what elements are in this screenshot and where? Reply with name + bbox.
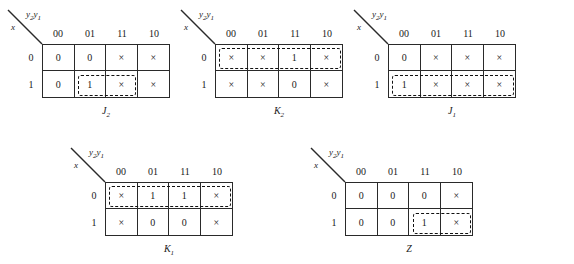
kmap-k1-column-variable-label: y2y1 <box>89 148 104 160</box>
kmap-k1-cell-r0c0: × <box>106 183 138 209</box>
kmap-k2-row-headers: 01 <box>197 44 211 98</box>
kmap-z-col-header-2: 11 <box>409 167 441 177</box>
kmap-j2-row-headers: 01 <box>24 44 38 98</box>
kmap-j1-row-header-1: 1 <box>370 71 384 98</box>
kmap-z-axis-corner: y2y1x <box>309 146 345 182</box>
kmap-k1-cell-r0c2: 1 <box>169 183 201 209</box>
kmap-z-cell-r0c1: 0 <box>378 183 410 209</box>
kmap-z-col-header-0: 00 <box>345 167 377 177</box>
kmap-j1-row-headers: 01 <box>370 44 384 98</box>
kmap-k2-row-variable-label: x <box>184 23 188 32</box>
kmap-k1-axis-corner: y2y1x <box>69 146 105 182</box>
kmap-k1-cell-r1c3: × <box>201 209 233 235</box>
kmap-j2-cell-r1c3: × <box>138 71 170 97</box>
kmap-j1-col-header-1: 01 <box>420 29 452 39</box>
kmap-j1-cell-r0c3: × <box>484 45 516 71</box>
kmap-j2-cell-r0c2: × <box>106 45 138 71</box>
kmap-k1-row-headers: 01 <box>87 182 101 236</box>
kmap-j1-column-variable-label: y2y1 <box>372 10 387 22</box>
kmap-k2-cell-r0c2: 1 <box>279 45 311 71</box>
kmap-j2-col-header-2: 11 <box>106 29 138 39</box>
kmap-k2-cell-r0c0: × <box>216 45 248 71</box>
kmap-k1-cell-r1c2: 0 <box>169 209 201 235</box>
kmap-k1-col-header-1: 01 <box>137 167 169 177</box>
kmap-k2-cell-r1c2: 0 <box>279 71 311 97</box>
kmap-j2-col-header-3: 10 <box>138 29 170 39</box>
kmap-k2-col-header-2: 11 <box>279 29 311 39</box>
kmap-k2-caption: K2 <box>215 106 343 119</box>
kmap-z-row-header-0: 0 <box>327 182 341 209</box>
kmap-j1-col-header-0: 00 <box>388 29 420 39</box>
kmap-z-col-header-3: 10 <box>441 167 473 177</box>
kmap-j1-cell-r0c0: 0 <box>389 45 421 71</box>
kmap-j2-row-header-1: 1 <box>24 71 38 98</box>
kmap-j2-col-header-1: 01 <box>74 29 106 39</box>
kmap-j2-column-variable-label: y2y1 <box>26 10 41 22</box>
kmap-z-col-header-1: 01 <box>377 167 409 177</box>
kmap-z-row-headers: 01 <box>327 182 341 236</box>
kmap-j1-cell-r1c2: × <box>452 71 484 97</box>
kmap-j2-cell-r1c1: 1 <box>75 71 107 97</box>
kmap-k1-cell-r0c1: 1 <box>138 183 170 209</box>
kmap-k1-col-header-2: 11 <box>169 167 201 177</box>
kmap-j2-row-header-0: 0 <box>24 44 38 71</box>
kmap-j2-cell-r0c3: × <box>138 45 170 71</box>
kmap-z-cell-r1c0: 0 <box>346 209 378 235</box>
kmap-z: y2y1x0001111001000×001×Z <box>345 182 473 236</box>
kmap-j2-cell-r0c1: 0 <box>75 45 107 71</box>
kmap-j2-cell-r0c0: 0 <box>43 45 75 71</box>
kmap-j1-col-header-2: 11 <box>452 29 484 39</box>
kmap-j1-cell-r1c3: × <box>484 71 516 97</box>
kmap-k2-column-variable-label: y2y1 <box>199 10 214 22</box>
kmap-k1-cell-r1c0: × <box>106 209 138 235</box>
kmap-j2-column-headers: 00011110 <box>42 29 170 39</box>
kmap-j2-caption: J2 <box>42 106 170 119</box>
kmap-k1: y2y1x0001111001×11××00×K1 <box>105 182 233 236</box>
kmap-z-column-variable-label: y2y1 <box>329 148 344 160</box>
kmap-k2-cell-r1c0: × <box>216 71 248 97</box>
kmap-k2-row-header-1: 1 <box>197 71 211 98</box>
kmap-z-cell-r1c2: 1 <box>409 209 441 235</box>
kmap-k2-row-header-0: 0 <box>197 44 211 71</box>
kmap-k2-column-headers: 00011110 <box>215 29 343 39</box>
kmap-k1-col-header-0: 00 <box>105 167 137 177</box>
kmap-k1-row-header-0: 0 <box>87 182 101 209</box>
kmap-figure: y2y1x000111100100××01××J2y2y1x0001111001… <box>0 0 574 264</box>
kmap-j2-cell-r1c0: 0 <box>43 71 75 97</box>
kmap-k1-row-header-1: 1 <box>87 209 101 236</box>
kmap-k2-col-header-3: 10 <box>311 29 343 39</box>
kmap-j1-caption: J1 <box>388 106 516 119</box>
kmap-j1-row-variable-label: x <box>357 23 361 32</box>
kmap-j2-cell-r1c2: × <box>106 71 138 97</box>
kmap-k2-cell-r0c3: × <box>311 45 343 71</box>
kmap-z-cell-r0c0: 0 <box>346 183 378 209</box>
kmap-z-column-headers: 00011110 <box>345 167 473 177</box>
kmap-k2-cell-r1c1: × <box>248 71 280 97</box>
kmap-z-cell-r1c1: 0 <box>378 209 410 235</box>
kmap-j2: y2y1x000111100100××01××J2 <box>42 44 170 98</box>
kmap-j2-axis-corner: y2y1x <box>6 8 42 44</box>
kmap-j1-col-header-3: 10 <box>484 29 516 39</box>
kmap-j1-grid: 0×××1××× <box>388 44 516 98</box>
kmap-k2-grid: ××1×××0× <box>215 44 343 98</box>
kmap-j1-axis-corner: y2y1x <box>352 8 388 44</box>
kmap-k2-cell-r0c1: × <box>248 45 280 71</box>
kmap-j1-cell-r1c1: × <box>421 71 453 97</box>
kmap-z-row-variable-label: x <box>314 161 318 170</box>
kmap-j1-row-header-0: 0 <box>370 44 384 71</box>
kmap-j1-cell-r1c0: 1 <box>389 71 421 97</box>
kmap-j2-col-header-0: 00 <box>42 29 74 39</box>
kmap-z-cell-r1c3: × <box>441 209 473 235</box>
kmap-j2-grid: 00××01×× <box>42 44 170 98</box>
kmap-k2-cell-r1c3: × <box>311 71 343 97</box>
kmap-j1-cell-r0c1: × <box>421 45 453 71</box>
kmap-z-cell-r0c2: 0 <box>409 183 441 209</box>
kmap-k1-row-variable-label: x <box>74 161 78 170</box>
kmap-k2-col-header-0: 00 <box>215 29 247 39</box>
kmap-z-row-header-1: 1 <box>327 209 341 236</box>
kmap-j2-row-variable-label: x <box>11 23 15 32</box>
kmap-k2-axis-corner: y2y1x <box>179 8 215 44</box>
kmap-k1-cell-r1c1: 0 <box>138 209 170 235</box>
kmap-z-cell-r0c3: × <box>441 183 473 209</box>
kmap-k1-caption: K1 <box>105 244 233 257</box>
